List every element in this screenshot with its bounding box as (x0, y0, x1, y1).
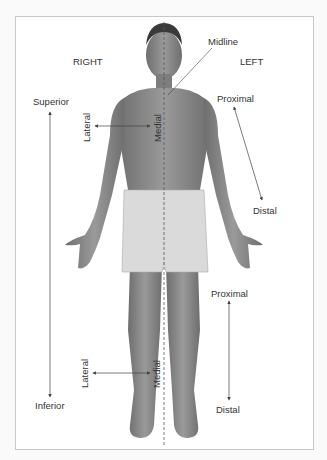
label-lower-proximal: Proximal (211, 289, 248, 299)
label-upper-medial: Medial (153, 114, 163, 142)
right-arm (65, 98, 124, 268)
left-leg (166, 265, 200, 438)
label-inferior: Inferior (35, 401, 65, 411)
arm-proximal-distal-arrow (234, 107, 262, 200)
shorts (122, 190, 208, 272)
label-midline: Midline (208, 37, 238, 47)
human-figure-illustration (0, 0, 327, 460)
label-lower-medial: Medial (152, 360, 162, 388)
label-left: LEFT (240, 57, 263, 67)
label-lower-distal: Distal (216, 405, 240, 415)
label-lower-lateral: Lateral (80, 359, 90, 388)
left-arm (204, 98, 263, 268)
label-upper-distal: Distal (253, 206, 277, 216)
label-upper-lateral: Lateral (82, 113, 92, 142)
label-right: RIGHT (73, 57, 103, 67)
label-upper-proximal: Proximal (217, 94, 254, 104)
label-superior: Superior (33, 97, 69, 107)
right-leg (128, 265, 162, 438)
